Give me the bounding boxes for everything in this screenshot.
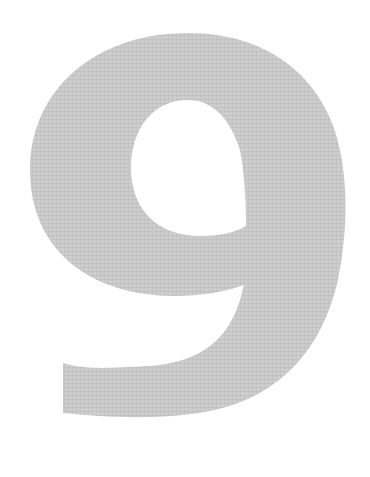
numeral-nine-figure: 9 bbox=[0, 0, 370, 477]
numeral-nine-glyph bbox=[30, 33, 345, 417]
numeral-nine-svg bbox=[0, 0, 370, 477]
